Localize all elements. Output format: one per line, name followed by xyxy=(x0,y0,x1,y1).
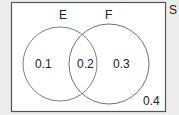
region-intersection-value: 0.2 xyxy=(77,57,94,71)
set-f-label: F xyxy=(105,8,112,22)
region-outside-value: 0.4 xyxy=(143,94,160,108)
universe-label: S xyxy=(169,3,177,17)
region-f-only-value: 0.3 xyxy=(113,57,130,71)
venn-diagram: S E F 0.1 0.2 0.3 0.4 xyxy=(0,0,179,115)
set-e-label: E xyxy=(59,8,67,22)
region-e-only-value: 0.1 xyxy=(35,57,52,71)
